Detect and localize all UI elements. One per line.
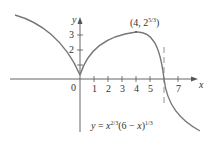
equation-exponent-2: 1/3 xyxy=(145,120,153,126)
y-axis-label: y xyxy=(72,15,76,25)
max-point-label-base: (4, 2 xyxy=(130,17,148,28)
equation-label: y = x2/3(6 − x)1/3 xyxy=(91,121,153,131)
x-tick-label: 4 xyxy=(134,84,139,94)
y-tick-label: 3 xyxy=(69,30,74,40)
curve-right-branch xyxy=(80,32,200,131)
function-graph: y x 0 1 2 3 4 5 7 1 2 3 (4, 25/3) y = x2… xyxy=(0,0,214,143)
equation-equals: = xyxy=(95,120,106,131)
max-point-marker xyxy=(135,31,137,33)
x-tick-label: 1 xyxy=(92,84,97,94)
origin-label: 0 xyxy=(71,83,76,93)
max-point-label: (4, 25/3) xyxy=(130,18,159,28)
x-tick-label: 7 xyxy=(176,84,181,94)
y-axis-arrow-icon xyxy=(78,17,83,24)
x-axis-label: x xyxy=(199,80,203,90)
x-axis-arrow-icon xyxy=(191,77,198,82)
max-point-label-close: ) xyxy=(156,17,159,28)
x-tick-label: 5 xyxy=(148,84,153,94)
x-tick-label: 3 xyxy=(120,84,125,94)
equation-middle: (6 − xyxy=(118,120,137,131)
y-tick-label: 2 xyxy=(69,45,74,55)
x-tick-label: 2 xyxy=(106,84,111,94)
max-point-label-exponent: 5/3 xyxy=(148,17,156,23)
